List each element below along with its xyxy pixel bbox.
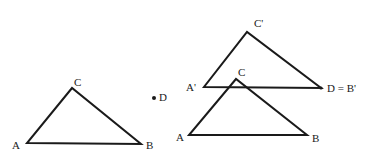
translation-diagram: A B C D A B C A' D = B' C'	[0, 0, 365, 160]
label-d: D	[159, 92, 167, 103]
label-c-right: C	[238, 67, 245, 78]
label-c-left: C	[74, 77, 81, 88]
label-b-left: B	[146, 140, 153, 151]
label-a-prime: A'	[186, 82, 196, 93]
label-b-right: B	[312, 133, 319, 144]
label-a-left: A	[12, 140, 20, 151]
label-a-right: A	[176, 132, 184, 143]
point-d-equals-b-prime	[319, 86, 322, 89]
label-c-prime: C'	[254, 18, 263, 29]
point-d	[152, 96, 156, 100]
label-d-equals-b-prime: D = B'	[327, 83, 356, 94]
triangle-abc-original	[27, 88, 141, 144]
triangle-a-prime-b-prime-c-prime	[204, 32, 321, 88]
